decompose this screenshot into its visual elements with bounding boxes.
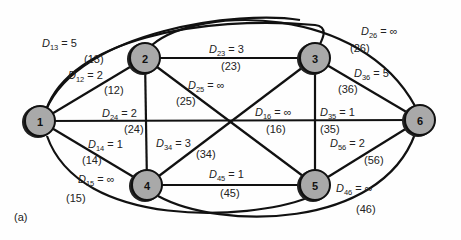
label-d36: D36 = 5 bbox=[354, 68, 389, 82]
node-2: 2 bbox=[127, 43, 160, 75]
label-d26: D26 = ∞ bbox=[361, 26, 398, 40]
paren-16: (16) bbox=[266, 124, 286, 135]
label-d46: D46 = ∞ bbox=[336, 183, 373, 197]
paren-13: (13) bbox=[84, 54, 104, 65]
paren-35: (35) bbox=[320, 124, 340, 135]
label-d35: D35 = 1 bbox=[320, 107, 355, 121]
label-d34: D34 = 3 bbox=[156, 138, 191, 152]
paren-15: (15) bbox=[66, 193, 86, 204]
svg-text:1: 1 bbox=[37, 116, 43, 128]
label-d45: D45 = 1 bbox=[209, 169, 244, 183]
node-6: 6 bbox=[402, 105, 435, 137]
paren-23: (23) bbox=[221, 61, 241, 72]
label-d15: D15 = ∞ bbox=[78, 174, 115, 188]
paren-26: (26) bbox=[350, 43, 370, 54]
svg-text:5: 5 bbox=[312, 180, 318, 192]
label-d23: D23 = 3 bbox=[209, 44, 244, 58]
node-3: 3 bbox=[297, 43, 330, 75]
paren-46: (46) bbox=[356, 204, 376, 215]
label-d12: D12 = 2 bbox=[68, 70, 103, 84]
svg-text:6: 6 bbox=[417, 115, 423, 127]
paren-56: (56) bbox=[364, 155, 384, 166]
label-d56: D56 = 2 bbox=[330, 138, 365, 152]
edge-2-4 bbox=[145, 58, 147, 185]
paren-34: (34) bbox=[196, 149, 216, 160]
panel-label: (a) bbox=[14, 212, 27, 223]
paren-14: (14) bbox=[82, 155, 102, 166]
label-d24: D24 = 2 bbox=[102, 108, 137, 122]
node-4: 4 bbox=[129, 170, 162, 202]
node-5: 5 bbox=[297, 170, 330, 202]
label-d16: D16 = ∞ bbox=[255, 107, 292, 121]
paren-36: (36) bbox=[338, 84, 358, 95]
label-d14: D14 = 1 bbox=[88, 139, 123, 153]
svg-text:4: 4 bbox=[144, 180, 151, 192]
label-d25: D25 = ∞ bbox=[188, 80, 225, 94]
paren-45: (45) bbox=[220, 188, 240, 199]
paren-25: (25) bbox=[176, 96, 196, 107]
svg-text:2: 2 bbox=[142, 53, 148, 65]
node-1: 1 bbox=[22, 106, 55, 138]
svg-text:3: 3 bbox=[312, 53, 318, 65]
label-d13: D13 = 5 bbox=[42, 38, 77, 52]
paren-12: (12) bbox=[104, 85, 124, 96]
paren-24: (24) bbox=[124, 124, 144, 135]
